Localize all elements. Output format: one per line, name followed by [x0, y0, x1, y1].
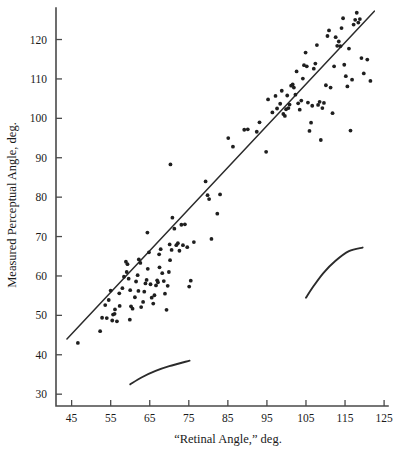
data-point	[306, 101, 310, 105]
data-point	[144, 282, 148, 286]
data-point	[312, 67, 316, 71]
data-point	[136, 273, 140, 277]
tick-marks	[56, 40, 384, 406]
data-point	[313, 62, 317, 66]
data-point	[137, 258, 141, 262]
data-point	[310, 104, 314, 108]
data-point	[337, 40, 341, 44]
data-point	[231, 145, 235, 149]
data-point	[168, 243, 172, 247]
plot-canvas: 455565758595105115125 304050607080901001…	[0, 0, 409, 455]
data-point	[122, 275, 126, 279]
data-point	[105, 316, 109, 320]
data-point	[318, 100, 322, 104]
data-point	[109, 289, 113, 293]
data-point	[358, 17, 362, 21]
data-point	[285, 94, 289, 98]
data-point	[172, 227, 176, 231]
data-point	[162, 279, 166, 283]
x-tick-label: 45	[66, 412, 78, 424]
data-point	[246, 127, 250, 131]
data-point	[341, 16, 345, 20]
data-point	[165, 308, 169, 312]
y-tick-label: 80	[36, 191, 48, 203]
data-point	[309, 121, 313, 125]
data-point	[145, 278, 149, 282]
data-point	[192, 240, 196, 244]
y-tick-label: 40	[36, 349, 48, 361]
y-tick-label: 60	[36, 270, 48, 282]
data-point	[113, 312, 117, 316]
x-tick-label: 55	[105, 412, 117, 424]
data-point	[168, 258, 172, 262]
data-point	[185, 245, 189, 249]
data-point	[149, 282, 153, 286]
data-point	[326, 34, 330, 38]
x-axis-title: “Retinal Angle,” deg.	[174, 432, 282, 446]
data-point	[264, 150, 268, 154]
x-tick-label: 105	[297, 412, 315, 424]
data-point	[352, 23, 356, 27]
data-point	[304, 51, 308, 55]
data-point	[107, 298, 111, 302]
data-point	[141, 300, 145, 304]
data-point	[331, 111, 335, 115]
data-point	[292, 86, 296, 90]
data-point	[301, 77, 305, 81]
data-point	[342, 63, 346, 67]
data-point	[278, 102, 282, 106]
data-point	[296, 101, 300, 105]
data-point	[210, 237, 214, 241]
data-point	[255, 130, 259, 134]
data-point	[320, 106, 324, 110]
data-point	[275, 107, 279, 111]
data-point	[127, 277, 131, 281]
data-point	[369, 79, 373, 83]
data-point	[334, 35, 338, 39]
data-point	[163, 292, 167, 296]
data-point	[178, 249, 182, 253]
data-point	[189, 279, 193, 283]
data-point	[356, 21, 360, 25]
data-point	[347, 47, 351, 51]
data-point	[138, 261, 142, 265]
data-point	[160, 271, 164, 275]
data-point	[110, 319, 114, 323]
data-point	[305, 64, 309, 68]
x-tick-label: 65	[144, 412, 156, 424]
data-point	[146, 231, 150, 235]
data-point	[134, 280, 138, 284]
data-point	[204, 179, 208, 183]
data-point	[176, 241, 180, 245]
y-axis-title: Measured Perceptual Angle, deg.	[5, 122, 19, 288]
data-point	[121, 286, 125, 290]
data-point	[280, 89, 284, 93]
data-point	[338, 44, 342, 48]
data-point	[283, 114, 287, 118]
annotation-curves	[130, 248, 362, 385]
data-point	[270, 111, 274, 115]
data-point	[319, 138, 323, 142]
data-point	[128, 288, 132, 292]
data-point	[344, 74, 348, 78]
data-point	[115, 319, 119, 323]
data-point	[207, 197, 211, 201]
data-point	[218, 192, 222, 196]
data-point	[274, 94, 278, 98]
data-point	[287, 106, 291, 110]
data-point	[179, 223, 183, 227]
y-tick-label: 120	[30, 34, 48, 46]
data-point	[322, 101, 326, 105]
data-point	[353, 18, 357, 22]
axis-frame	[56, 8, 388, 406]
data-point	[187, 285, 191, 289]
data-point	[131, 307, 135, 311]
data-point	[156, 280, 160, 284]
data-point	[226, 136, 230, 140]
data-point	[167, 270, 171, 274]
y-tick-label: 110	[30, 73, 47, 85]
data-point	[139, 305, 143, 309]
upper-arc	[306, 248, 363, 298]
data-point	[118, 304, 122, 308]
regression-line	[67, 11, 374, 339]
